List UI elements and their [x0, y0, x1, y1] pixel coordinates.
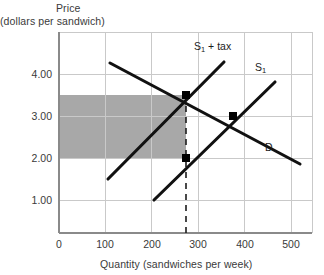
curve-label-d: D [265, 141, 273, 153]
marker-equilibrium-original [229, 112, 237, 120]
plot-canvas [0, 0, 324, 275]
curve-label-s1-plus-tax-text: S [194, 40, 201, 52]
x-axis-title: Quantity (sandwiches per week) [100, 258, 252, 271]
supply-demand-chart: Price (dollars per sandwich) [0, 0, 324, 275]
x-tick-label-500: 500 [271, 238, 311, 250]
x-tick-label-100: 100 [85, 238, 125, 250]
y-axis-title-line2: (dollars per sandwich) [0, 15, 105, 28]
x-tick-label-0: 0 [39, 238, 79, 250]
y-axis-title-line1: Price [56, 2, 80, 14]
curve-label-s1: S1 [255, 61, 266, 73]
marker-price-received-by-seller [182, 154, 190, 162]
curve-label-s1-plus-tax: S1 + tax [194, 40, 231, 52]
marker-equilibrium-with-tax [182, 91, 190, 99]
curve-label-s1-text: S [255, 61, 262, 73]
curve-label-s1-sub: 1 [262, 66, 266, 75]
y-tick-label-3: 3.00 [20, 110, 52, 122]
shaded-region-tax-revenue [59, 95, 186, 159]
x-tick-label-400: 400 [225, 238, 265, 250]
y-tick-label-2: 2.00 [20, 152, 52, 164]
x-tick-label-300: 300 [178, 238, 218, 250]
curve-label-s1-plus-tax-sub: 1 [201, 45, 205, 54]
y-axis-title: Price (dollars per sandwich) [56, 2, 105, 28]
x-tick-label-200: 200 [132, 238, 172, 250]
y-tick-label-4: 4.00 [20, 68, 52, 80]
curve-label-s1-plus-tax-suffix: + tax [205, 40, 231, 52]
y-tick-label-1: 1.00 [20, 194, 52, 206]
